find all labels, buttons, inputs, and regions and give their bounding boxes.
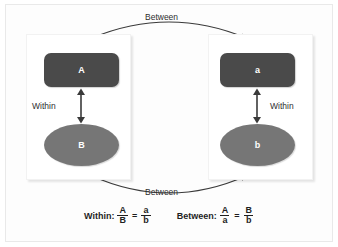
node-rect-a-lower: a xyxy=(220,53,295,87)
between-formula-right-numerator: B xyxy=(243,206,254,215)
formula-row: Within: A B = a b Between: A a = B b xyxy=(0,206,338,225)
between-formula-left-denominator: a xyxy=(220,215,229,225)
node-ellipse-b-lower: b xyxy=(220,124,295,166)
node-rect-a-upper: A xyxy=(44,53,119,87)
within-formula-left-denominator: B xyxy=(117,215,128,225)
within-arrow-left xyxy=(72,88,90,124)
within-formula-right-denominator: b xyxy=(141,215,151,225)
node-ellipse-b-upper: B xyxy=(44,124,119,166)
between-label-top: Between xyxy=(145,12,178,22)
within-formula: Within: A B = a b xyxy=(84,206,151,225)
within-formula-right-numerator: a xyxy=(141,206,150,215)
between-label-bottom: Between xyxy=(145,187,178,197)
between-formula-equals: = xyxy=(233,211,240,221)
within-formula-right-fraction: a b xyxy=(141,206,151,225)
within-formula-equals: = xyxy=(131,211,138,221)
within-arrow-right xyxy=(248,88,266,124)
within-formula-word: Within: xyxy=(84,211,114,221)
within-label-left: Within xyxy=(32,101,56,111)
between-formula-left-numerator: A xyxy=(220,206,231,215)
within-formula-left-fraction: A B xyxy=(117,206,128,225)
between-formula-left-fraction: A a xyxy=(220,206,231,225)
between-formula-right-denominator: b xyxy=(244,215,254,225)
between-formula: Between: A a = B b xyxy=(177,206,254,225)
between-formula-right-fraction: B b xyxy=(243,206,254,225)
within-formula-left-numerator: A xyxy=(117,206,128,215)
between-formula-word: Between: xyxy=(177,211,217,221)
diagram-canvas: Between Between A B Within a b Within Wi… xyxy=(0,0,338,247)
within-label-right: Within xyxy=(270,101,294,111)
